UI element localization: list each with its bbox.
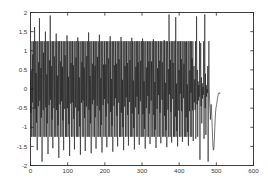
figure-container: 0100200300400500600-2-1.5-1-0.500.511.52 [0, 0, 268, 184]
y-tick-label: -1 [22, 123, 28, 130]
y-tick-label: 0 [24, 85, 28, 92]
y-tick-label: 2 [24, 9, 28, 16]
x-tick-label: 400 [174, 167, 185, 174]
y-tick-label: -0.5 [17, 104, 28, 111]
x-tick-label: 500 [211, 167, 222, 174]
y-tick-label: 0.5 [19, 66, 28, 73]
x-tick-label: 0 [29, 167, 33, 174]
x-tick-label: 200 [100, 167, 111, 174]
x-tick-label: 600 [248, 167, 259, 174]
signal-plot: 0100200300400500600-2-1.5-1-0.500.511.52 [0, 0, 268, 184]
x-tick-label: 300 [137, 167, 148, 174]
y-tick-label: -2 [22, 162, 28, 169]
y-tick-label: 1 [24, 47, 28, 54]
y-tick-label: -1.5 [17, 143, 28, 150]
y-tick-label: 1.5 [19, 28, 28, 35]
x-tick-label: 100 [63, 167, 74, 174]
